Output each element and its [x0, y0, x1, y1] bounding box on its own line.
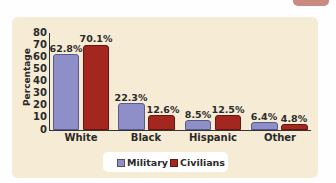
bar-military-hispanic: [185, 120, 211, 130]
bar-military-white: [53, 54, 79, 130]
category-label: Black: [116, 132, 176, 143]
category-label: Hispanic: [183, 132, 243, 143]
y-tick: 10: [33, 112, 47, 122]
legend-item-military: Military: [117, 157, 168, 168]
military-swatch-icon: [117, 159, 125, 167]
category-label: Other: [250, 132, 310, 143]
y-tick: 20: [33, 100, 47, 110]
category-label: White: [51, 132, 111, 143]
y-tick: 50: [33, 64, 47, 74]
legend-label: Military: [127, 157, 168, 168]
value-label: 62.8%: [46, 43, 86, 54]
y-tick: 60: [33, 52, 47, 62]
x-axis-line: [49, 130, 311, 131]
bar-civilians-black: [148, 115, 175, 130]
legend-item-civilians: Civilians: [170, 157, 225, 168]
value-label: 12.5%: [208, 104, 248, 115]
civilians-swatch-icon: [170, 159, 178, 167]
value-label: 70.1%: [76, 33, 116, 44]
legend-label: Civilians: [180, 157, 225, 168]
bar-civilians-white: [83, 45, 109, 130]
value-label: 12.6%: [143, 104, 183, 115]
bar-civilians-other: [281, 124, 308, 130]
bar-civilians-hispanic: [215, 115, 241, 130]
y-axis-label: Percentage: [22, 48, 32, 106]
legend: Military Civilians: [103, 152, 228, 172]
bar-military-black: [118, 103, 145, 130]
corner-tab: [293, 0, 329, 6]
value-label: 4.8%: [274, 113, 314, 124]
y-tick: 40: [33, 76, 47, 86]
value-label: 22.3%: [111, 92, 151, 103]
y-tick: 0: [33, 125, 47, 135]
y-tick: 70: [33, 40, 47, 50]
y-tick: 30: [33, 88, 47, 98]
y-tick: 80: [33, 28, 47, 38]
